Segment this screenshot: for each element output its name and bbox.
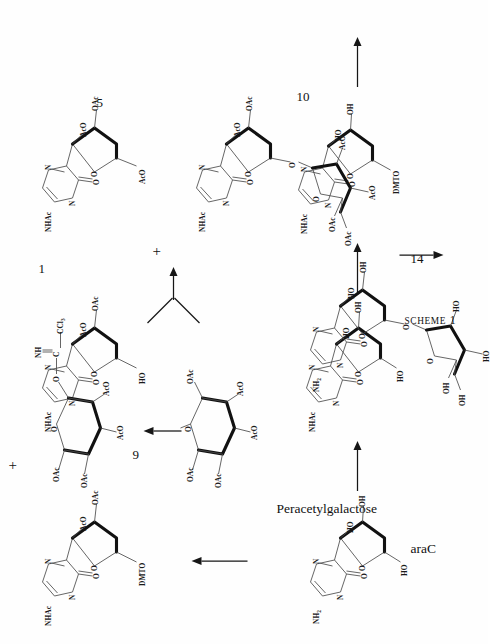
atom-label-ccl3: CCl3 (56, 318, 66, 334)
compound-number-1: 1 (38, 262, 45, 275)
atom-label-aco-5: AcO (236, 381, 243, 396)
atom-label-carbonyl-o: O (246, 179, 253, 185)
atom-label-aco-5: AcO (102, 381, 109, 396)
atom-label-nhac: NHAc (198, 212, 205, 232)
caption-scheme-word: SCHEME (404, 316, 446, 326)
reaction-arrow-converging (146, 266, 204, 324)
atom-label-dmto-5prime: DMTO (138, 563, 145, 586)
atom-label-ho-5prime: HO (400, 564, 407, 576)
atom-label-aco-gal-2: AcO (338, 135, 345, 150)
figure-caption: SCHEME 1 (404, 314, 456, 326)
compound-name-arac: araC (410, 542, 435, 556)
molecule-compound-5: NHAc N N O O AcO OAc AcO 5 (32, 92, 172, 232)
atom-label-oh-gal-5: OH (458, 394, 465, 406)
atom-label-carbonyl-o: O (360, 573, 367, 579)
atom-label-imidate-c: C (52, 352, 59, 357)
atom-label-nhac: NHAc (44, 212, 51, 232)
operator-plus-1: + (8, 458, 16, 473)
atom-label-aco-4: AcO (116, 425, 123, 440)
reaction-arrow-vertical-1 (190, 554, 248, 568)
atom-label-nhac: NHAc (308, 412, 315, 432)
atom-label-carbonyl-o: O (360, 341, 367, 347)
atom-label-n-ring: N (68, 595, 75, 600)
caption-scheme-number: 1 (449, 313, 456, 327)
atom-label-ring-o: O (358, 333, 365, 339)
atom-label-aco-5prime: AcO (138, 169, 145, 184)
atom-label-n-ring: N (332, 401, 339, 406)
atom-label-ring-o: O (358, 565, 365, 571)
atom-label-n-ring: N (336, 363, 343, 368)
atom-label-pyranose-ring-o: O (312, 196, 319, 202)
atom-label-oac-2: OAc (186, 467, 193, 482)
atom-label-ho-3prime: HO (347, 287, 354, 299)
atom-label-ho-gal-2: HO (452, 300, 459, 312)
atom-label-n1: N (312, 327, 319, 332)
reaction-arrow-1 (350, 440, 364, 492)
atom-label-dmto-5prime: DMTO (392, 171, 399, 194)
compound-number-9: 9 (132, 448, 139, 461)
atom-label-n-ring: N (68, 201, 75, 206)
atom-label-ring-o: O (90, 171, 97, 177)
atom-label-ring-o: O (244, 171, 251, 177)
atom-label-n1: N (198, 165, 205, 170)
molecule-diacetyl-dmt: NHAc N N O O AcO OAc DMTO (32, 486, 168, 626)
atom-label-carbonyl-o: O (92, 573, 99, 579)
atom-label-nhac: NHAc (44, 606, 51, 626)
atom-label-oac-3: OAc (80, 473, 87, 488)
compound-number-5: 5 (96, 96, 103, 109)
atom-label-oac-3: OAc (214, 473, 221, 488)
atom-label-oac-2: OAc (52, 467, 59, 482)
compound-name-peracetylgalactose: Peracetylgalactose (276, 502, 376, 516)
atom-label-n1: N (312, 559, 319, 564)
atom-label-nh2: NH2 (312, 378, 322, 392)
atom-label-aco-4: AcO (250, 425, 257, 440)
atom-label-ho-gal-4: HO (482, 350, 489, 362)
atom-label-ring-o: O (50, 426, 57, 432)
atom-label-aco-gal-4: AcO (368, 185, 375, 200)
atom-label-ring-o: O (184, 426, 191, 432)
reaction-arrow-vertical-2 (142, 424, 182, 438)
atom-label-n1: N (44, 165, 51, 170)
atom-label-nh2: NH2 (312, 610, 322, 624)
atom-label-n-ring: N (222, 201, 229, 206)
atom-label-oac-2prime: OAc (245, 96, 252, 111)
atom-label-n1: N (44, 559, 51, 564)
molecule-peracetylgalactose: OAc OAc OAc AcO AcO O Peracetylgalactose (180, 364, 284, 494)
molecule-compound-14: NH2 N N O O HO OH O O HO HO OH OH 14 (300, 214, 494, 394)
atom-label-imidate-nh: NH (34, 347, 41, 358)
atom-label-oac-1: OAc (186, 369, 193, 384)
operator-plus-2: + (152, 244, 160, 259)
compound-number-14: 14 (410, 252, 423, 265)
molecule-compound-10: NHAc N N O O AcO OAc O O AcO AcO OAc OAc… (186, 52, 386, 232)
atom-label-imidate-o: O (52, 376, 59, 382)
molecule-compound-9: OAc OAc AcO AcO O O C NH CCl3 9 (34, 324, 142, 494)
atom-label-oac-2prime: OAc (91, 296, 98, 311)
atom-label-n-ring: N (336, 595, 343, 600)
compound-number-10: 10 (296, 90, 309, 103)
atom-label-ring-o: O (90, 565, 97, 571)
atom-label-carbonyl-o: O (92, 179, 99, 185)
atom-label-oh-gal-6: OH (442, 382, 449, 394)
atom-label-oh-2prime: OH (359, 261, 366, 273)
atom-label-pyranose-ring-o: O (426, 358, 433, 364)
atom-label-ho-3prime: HO (346, 521, 353, 533)
atom-label-aco-3prime: AcO (79, 122, 86, 137)
atom-label-aco-3prime: AcO (79, 516, 86, 531)
atom-label-glycosidic-o: O (288, 162, 295, 168)
atom-label-aco-3prime: AcO (233, 122, 240, 137)
